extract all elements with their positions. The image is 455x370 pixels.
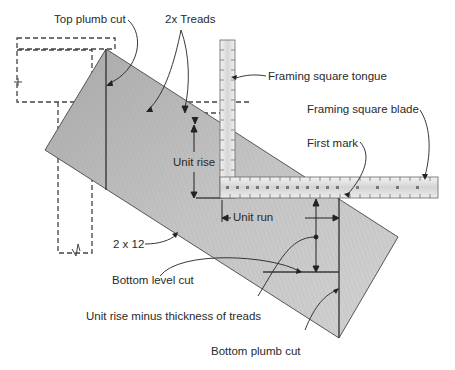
label-framing-square-blade: Framing square blade <box>307 103 419 116</box>
label-unit-run: Unit run <box>233 211 273 224</box>
label-first-mark: First mark <box>307 137 358 150</box>
label-framing-square-tongue: Framing square tongue <box>268 70 387 83</box>
leader-tongue <box>236 75 266 78</box>
framing-square-tongue <box>220 40 235 198</box>
label-bottom-plumb-cut: Bottom plumb cut <box>211 345 300 358</box>
label-unit-rise: Unit rise <box>173 156 215 169</box>
label-board-size: 2 x 12 <box>113 238 144 251</box>
stair-stringer-diagram: Top plumb cut 2x Treads Framing square t… <box>0 0 455 370</box>
leader-treads-2 <box>181 30 188 108</box>
break-symbol-icon <box>14 78 80 256</box>
label-unit-rise-minus-treads: Unit rise minus thickness of treads <box>86 310 261 323</box>
framing-square-blade <box>220 177 438 198</box>
label-top-plumb-cut: Top plumb cut <box>54 13 126 26</box>
leader-board <box>145 235 176 244</box>
label-bottom-level-cut: Bottom level cut <box>112 274 194 287</box>
label-treads: 2x Treads <box>165 13 216 26</box>
leader-blade <box>420 110 429 176</box>
